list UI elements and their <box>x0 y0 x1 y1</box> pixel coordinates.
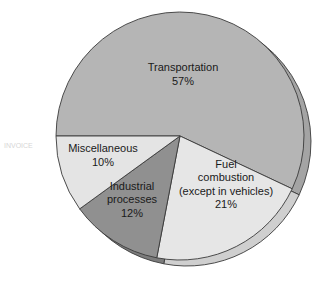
slice-value-label: 12% <box>121 207 143 219</box>
slice-name-line: Miscellaneous <box>68 142 138 154</box>
slice-name-line: processes <box>107 193 158 205</box>
slice-name-line: combustion <box>198 171 254 183</box>
slice-value-label: 10% <box>92 156 114 168</box>
pie-slices <box>56 12 304 260</box>
slice-name-line: Transportation <box>148 61 219 73</box>
slice-value-label: 57% <box>172 75 194 87</box>
background-text: INVOICE <box>4 142 33 149</box>
slice-name-line: (except in vehicles) <box>179 185 273 197</box>
slice-value-label: 21% <box>215 198 237 210</box>
pie-chart: INVOICE Transportation57%Fuelcombustion(… <box>0 0 329 282</box>
slice-name-line: Fuel <box>215 158 236 170</box>
slice-name-line: Industrial <box>110 180 155 192</box>
